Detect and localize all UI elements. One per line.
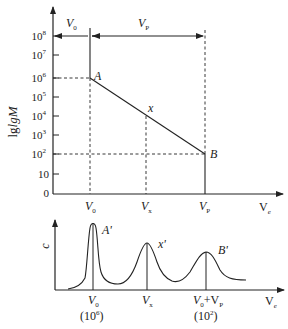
top-plot: 108 107 106 105 104 103 102 10 0 lglgM V… xyxy=(5,7,283,216)
y-tick-1e2: 102 xyxy=(32,147,47,160)
dashed-guides xyxy=(53,30,205,194)
y-tick-1e3: 103 xyxy=(32,128,47,141)
peak-label-A-prime: A' xyxy=(101,223,112,237)
y-tick-labels: 108 107 106 105 104 103 102 10 0 xyxy=(32,29,50,199)
point-label-x: x xyxy=(147,101,154,115)
span-label-v0: V0 xyxy=(66,16,77,32)
bottom-x-tick-v0: V0 xyxy=(88,293,99,309)
bottom-x-axis-label: Ve xyxy=(265,294,277,310)
vp-arrow-start xyxy=(92,33,100,39)
x-tick-v0: V0 xyxy=(85,199,96,215)
span-arrows xyxy=(55,28,203,78)
top-x-axis-label: Ve xyxy=(259,200,271,216)
bottom-plot: c A' x' B' V0 Vx V0+VP (106) (102) Ve xyxy=(38,220,284,323)
note-1e2: (102) xyxy=(194,309,218,323)
bottom-x-tick-v0-plus-vp: V0+VP xyxy=(193,293,223,309)
point-label-A: A xyxy=(93,69,102,83)
calibration-line-AB xyxy=(90,78,205,154)
point-label-B: B xyxy=(210,147,218,161)
gel-filtration-diagram: 108 107 106 105 104 103 102 10 0 lglgM V… xyxy=(0,0,288,329)
bottom-x-tick-labels: V0 Vx V0+VP xyxy=(88,293,223,309)
y-tick-1e4: 104 xyxy=(32,109,47,122)
top-x-tick-labels: V0 Vx VP xyxy=(85,199,210,215)
y-tick-1e6: 106 xyxy=(32,71,47,84)
y-tick-1e8: 108 xyxy=(32,29,47,42)
span-label-vp: VP xyxy=(138,16,149,32)
x-tick-vx: Vx xyxy=(141,199,152,215)
peak-label-B-prime: B' xyxy=(218,243,228,257)
x-tick-vp: VP xyxy=(199,199,210,215)
note-1e6: (106) xyxy=(80,309,104,323)
y-tick-0: 0 xyxy=(44,187,50,199)
y-tick-10: 10 xyxy=(38,168,50,180)
peak-label-x-prime: x' xyxy=(157,237,166,251)
y-axis-label-lgM: lglgM xyxy=(5,105,20,137)
y-ticks xyxy=(53,36,59,174)
y-tick-1e7: 107 xyxy=(32,48,47,61)
y-tick-1e5: 105 xyxy=(32,90,47,103)
bottom-y-axis-label: c xyxy=(38,243,52,249)
bottom-x-tick-vx: Vx xyxy=(142,293,153,309)
